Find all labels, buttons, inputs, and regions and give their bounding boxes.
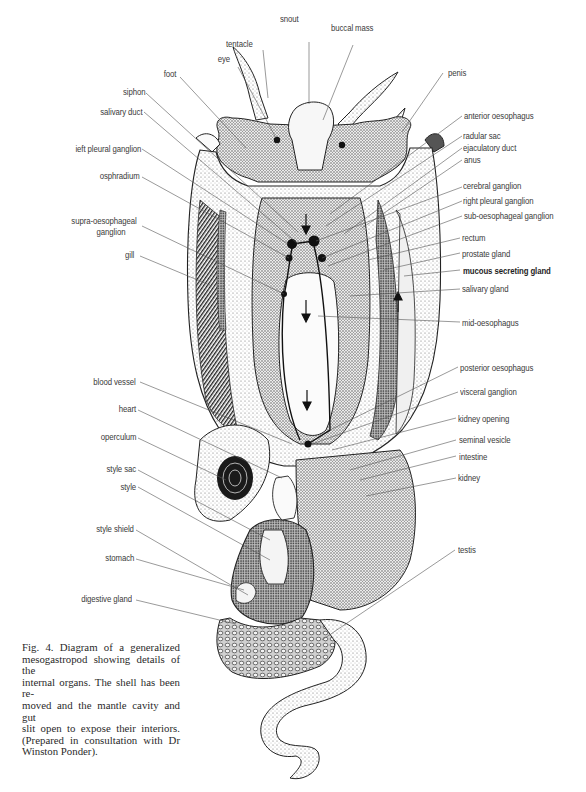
label-supra-oesophageal: supra-oesophageal: [72, 215, 137, 226]
label-kidney-opening: kidney opening: [458, 413, 509, 424]
digestive-gland-shape: [217, 618, 335, 679]
left-tentacle: [233, 47, 268, 120]
label-foot: foot: [163, 68, 176, 79]
label-mucous-secreting-gland: mucous secreting gland: [463, 265, 551, 276]
label-visceral-ganglion: visceral ganglion: [460, 386, 517, 397]
caption-line: slit open to expose their interiors.: [22, 723, 180, 735]
right-eye: [339, 142, 345, 148]
label-anus: anus: [464, 154, 481, 165]
label-supra-oesophageal-ganglion: ganglion: [91, 226, 132, 237]
label-style: style: [120, 481, 136, 492]
heart-shape: [273, 476, 297, 520]
label-left-pleural-ganglion: ieft pleural ganglion: [75, 143, 141, 154]
label-snout: snout: [280, 13, 299, 24]
label-cerebral-ganglion: cerebral ganglion: [463, 180, 521, 191]
label-kidney: kidney: [458, 472, 480, 483]
caption-line: Winston Ponder).: [22, 746, 180, 758]
label-posterior-oesophagus: posterior oesophagus: [460, 362, 533, 373]
label-testis: testis: [458, 544, 476, 555]
left-eye: [274, 137, 280, 143]
label-osphradium: osphradium: [100, 170, 140, 181]
caption-line: internal organs. The shell has been re-: [22, 677, 180, 700]
label-prostate-gland: prostate gland: [462, 248, 510, 259]
caption-line: moved and the mantle cavity and gut: [22, 700, 180, 723]
diagram-figure: snout buccal mass tentacle eye foot peni…: [0, 0, 586, 792]
label-siphon: siphon: [123, 86, 145, 97]
label-intestine: intestine: [459, 451, 487, 462]
label-salivary-gland: salivary gland: [462, 283, 508, 294]
caption-line: Fig. 4. Diagram of a generalized: [22, 642, 180, 654]
label-rectum: rectum: [462, 232, 485, 243]
label-mid-oesophagus: mid-oesophagus: [462, 317, 518, 328]
label-salivary-duct: salivary duct: [100, 106, 142, 117]
label-operculum: operculum: [100, 431, 136, 442]
label-blood-vessel: blood vessel: [94, 376, 136, 387]
label-right-pleural-ganglion: right pleural ganglion: [463, 195, 534, 206]
kidney-shape: [296, 450, 415, 610]
caption-line: mesogastropod showing details of the: [22, 654, 180, 677]
label-stomach: stomach: [105, 552, 134, 563]
label-eye: eye: [218, 53, 230, 64]
label-radular-sac: radular sac: [463, 130, 501, 141]
label-digestive-gland: digestive gland: [81, 593, 132, 604]
label-sub-oesophageal-ganglion: sub-oesophageal ganglion: [464, 210, 553, 221]
label-buccal-mass: buccal mass: [331, 22, 373, 33]
label-gill: gill: [125, 249, 134, 260]
label-style-shield: style shield: [96, 523, 134, 534]
label-penis: penis: [448, 67, 466, 78]
label-seminal-vesicle: seminal vesicle: [459, 434, 511, 445]
figure-caption: Fig. 4. Diagram of a generalized mesogas…: [22, 642, 180, 758]
label-tentacle: tentacle: [226, 38, 253, 49]
label-anterior-oesophagus: anterior oesophagus: [464, 110, 533, 121]
label-style-sac: style sac: [106, 463, 136, 474]
label-ejaculatory-duct: ejaculatory duct: [463, 142, 516, 153]
label-heart: heart: [119, 403, 136, 414]
